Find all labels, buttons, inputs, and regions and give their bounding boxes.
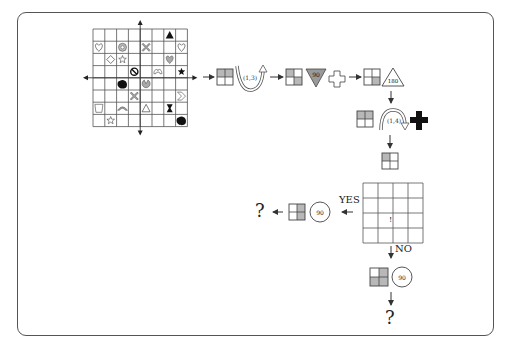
step1-rotate-label: (1,3) xyxy=(243,74,257,81)
check-grid xyxy=(363,183,423,243)
no-quad xyxy=(370,268,388,286)
check-grid-mark: ! xyxy=(389,215,392,224)
no-circle-label: 90 xyxy=(398,274,406,281)
yes-circle-label: 90 xyxy=(316,209,324,216)
step1-quad xyxy=(217,69,233,85)
step2-quad xyxy=(286,69,302,85)
outline-cross-icon xyxy=(329,71,345,87)
flow-diagram: (1,3) 90 180 xyxy=(0,0,510,348)
no-label: NO xyxy=(395,243,412,254)
no-result-question: ? xyxy=(385,307,395,328)
filled-cross-icon xyxy=(410,111,428,130)
step5-quad xyxy=(382,153,398,169)
step4-quad xyxy=(357,111,373,127)
step4-rotate-label: (1,4) xyxy=(387,117,401,124)
yes-quad xyxy=(289,204,305,220)
yes-result-question: ? xyxy=(255,200,265,221)
step3-quad xyxy=(364,69,380,85)
step3-triangle-label: 180 xyxy=(388,78,399,84)
step2-triangle-label: 90 xyxy=(312,71,320,78)
yes-label: YES xyxy=(339,194,360,205)
